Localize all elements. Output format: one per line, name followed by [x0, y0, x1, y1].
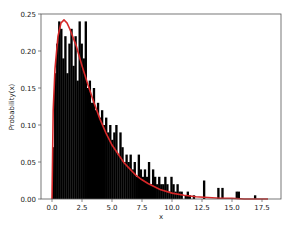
histogram-bar — [221, 188, 223, 199]
x-tick-label: 12.5 — [194, 204, 210, 212]
histogram-bar — [148, 162, 150, 199]
histogram-bar — [95, 110, 97, 199]
histogram-bar — [115, 125, 117, 199]
histogram-bar — [70, 29, 72, 199]
chart: 0.02.55.07.510.012.515.017.5 0.000.050.1… — [0, 0, 289, 233]
histogram-bar — [58, 21, 60, 199]
histogram-bar — [164, 177, 166, 199]
histogram-bar — [152, 169, 154, 199]
x-tick-label: 2.5 — [76, 204, 87, 212]
x-axis-label: x — [159, 213, 163, 221]
histogram-bar — [125, 155, 127, 199]
histogram-bar — [140, 169, 142, 199]
histogram-bar — [130, 155, 132, 199]
histogram-bars — [52, 21, 256, 199]
histogram-bar — [103, 125, 105, 199]
x-tick-label: 0.0 — [46, 204, 57, 212]
histogram-bar — [119, 132, 121, 199]
x-axis-ticks: 0.02.55.07.510.012.515.017.5 — [46, 199, 269, 212]
y-tick-label: 0.15 — [20, 85, 36, 93]
histogram-bar — [117, 155, 119, 199]
histogram-bar — [66, 73, 68, 199]
y-tick-label: 0.10 — [20, 122, 36, 130]
histogram-bar — [113, 132, 115, 199]
histogram-bar — [144, 169, 146, 199]
histogram-bar — [156, 184, 158, 199]
histogram-bar — [64, 36, 66, 199]
histogram-bar — [76, 81, 78, 199]
histogram-bar — [56, 44, 58, 199]
histogram-bar — [74, 36, 76, 199]
histogram-bar — [79, 21, 81, 199]
y-axis-ticks: 0.000.050.100.150.200.25 — [20, 11, 41, 204]
histogram-bar — [72, 66, 74, 199]
x-tick-label: 10.0 — [164, 204, 180, 212]
y-axis-label: Probability(x) — [8, 83, 16, 130]
histogram-bar — [203, 181, 205, 200]
histogram-bar — [91, 103, 93, 199]
histogram-bar — [109, 125, 111, 199]
x-tick-label: 7.5 — [136, 204, 147, 212]
y-tick-label: 0.20 — [20, 48, 36, 56]
histogram-bar — [89, 81, 91, 199]
histogram-bar — [85, 21, 87, 199]
histogram-bar — [146, 177, 148, 199]
histogram-bar — [136, 177, 138, 199]
histogram-bar — [174, 192, 176, 199]
histogram-bar — [160, 184, 162, 199]
histogram-bar — [99, 118, 101, 199]
histogram-bar — [111, 140, 113, 199]
histogram-bar — [121, 147, 123, 199]
histogram-bar — [134, 162, 136, 199]
y-tick-label: 0.25 — [20, 11, 36, 19]
histogram-bar — [170, 177, 172, 199]
histogram-bar — [60, 29, 62, 199]
histogram-bar — [176, 184, 178, 199]
histogram-bar — [68, 44, 70, 199]
histogram-bar — [162, 184, 164, 199]
x-tick-label: 17.5 — [254, 204, 270, 212]
histogram-bar — [87, 88, 89, 199]
x-tick-label: 5.0 — [106, 204, 117, 212]
histogram-bar — [83, 58, 85, 199]
y-tick-label: 0.00 — [20, 196, 36, 204]
histogram-bar — [150, 184, 152, 199]
y-tick-label: 0.05 — [20, 159, 36, 167]
histogram-bar — [62, 58, 64, 199]
histogram-bar — [123, 162, 125, 199]
histogram-bar — [107, 132, 109, 199]
histogram-bar — [217, 188, 219, 199]
histogram-bar — [172, 184, 174, 199]
x-tick-label: 15.0 — [224, 204, 240, 212]
